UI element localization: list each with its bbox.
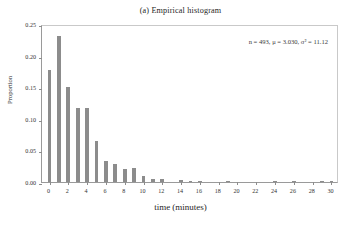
x-tick-mark [313,182,314,185]
y-tick-label: 0.00 [25,180,36,186]
x-tick-mark [181,182,182,185]
y-tick-mark [39,184,42,185]
y-tick-mark [39,26,42,27]
y-tick-mark [39,89,42,90]
x-tick-mark [256,182,257,185]
x-tick-mark [331,182,332,185]
x-axis-title: time (minutes) [0,202,361,212]
x-tick-label: 0 [39,188,59,194]
histogram-bar [123,169,127,182]
x-tick-mark [106,182,107,185]
histogram-bar [95,141,99,182]
x-tick-label: 4 [76,188,96,194]
x-tick-label: 24 [264,188,284,194]
x-tick-mark [125,182,126,185]
y-axis-title: Proportion [6,76,13,104]
plot-inner: n = 493, μ = 3.030, σ² = 11.12 [42,26,337,182]
x-tick-mark [237,182,238,185]
x-tick-mark [200,182,201,185]
x-tick-mark [68,182,69,185]
histogram-bar [57,36,61,182]
y-tick-label: 0.05 [25,148,36,154]
x-tick-mark [87,182,88,185]
histogram-bar [320,181,324,182]
figure-title: (a) Empirical histogram [0,6,361,15]
histogram-bar [66,87,70,182]
x-tick-label: 22 [245,188,265,194]
x-tick-label: 2 [57,188,77,194]
histogram-bar [189,181,193,182]
y-tick-label: 0.25 [25,22,36,28]
y-tick-label: 0.20 [25,54,36,60]
x-tick-label: 16 [189,188,209,194]
y-tick-mark [39,152,42,153]
histogram-bar [226,181,230,182]
x-tick-label: 30 [320,188,340,194]
x-tick-label: 18 [208,188,228,194]
y-tick-mark [39,121,42,122]
x-tick-label: 26 [283,188,303,194]
y-tick-mark [39,58,42,59]
histogram-bar [85,108,89,182]
histogram-bar [104,161,108,182]
plot-area: n = 493, μ = 3.030, σ² = 11.12 [41,25,338,183]
x-tick-label: 10 [133,188,153,194]
x-tick-mark [219,182,220,185]
empirical-histogram-figure: (a) Empirical histogram Proportion time … [0,0,361,231]
x-tick-mark [294,182,295,185]
x-tick-mark [144,182,145,185]
x-tick-mark [162,182,163,185]
histogram-bar [132,168,136,182]
x-tick-label: 20 [226,188,246,194]
x-tick-mark [50,182,51,185]
x-tick-label: 6 [95,188,115,194]
histogram-bar [151,179,155,182]
y-tick-label: 0.10 [25,117,36,123]
x-tick-label: 14 [170,188,190,194]
x-tick-label: 12 [151,188,171,194]
statistics-annotation: n = 493, μ = 3.030, σ² = 11.12 [249,38,328,45]
histogram-bar [113,164,117,182]
y-tick-label: 0.15 [25,85,36,91]
x-tick-label: 8 [114,188,134,194]
histogram-bar [48,70,52,182]
x-tick-label: 28 [302,188,322,194]
histogram-bar [76,108,80,182]
x-tick-mark [275,182,276,185]
